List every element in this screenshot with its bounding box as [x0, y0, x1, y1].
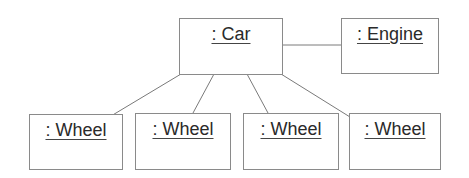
- object-wheel-1: : Wheel: [29, 114, 123, 170]
- object-wheel-3-label: : Wheel: [244, 119, 338, 140]
- object-wheel-2-label: : Wheel: [136, 119, 230, 140]
- object-engine: : Engine: [341, 18, 439, 74]
- object-wheel-4-label: : Wheel: [350, 119, 440, 140]
- object-wheel-3: : Wheel: [243, 113, 339, 170]
- object-wheel-1-label: : Wheel: [30, 120, 122, 141]
- object-car: : Car: [179, 18, 283, 75]
- object-engine-label: : Engine: [342, 24, 438, 45]
- link-car-wheel4: [281, 74, 350, 117]
- link-car-wheel2: [193, 74, 214, 113]
- link-car-wheel1: [111, 74, 181, 116]
- object-wheel-2: : Wheel: [135, 113, 231, 170]
- object-car-label: : Car: [180, 24, 282, 45]
- link-car-wheel3: [247, 74, 268, 113]
- object-wheel-4: : Wheel: [349, 113, 441, 170]
